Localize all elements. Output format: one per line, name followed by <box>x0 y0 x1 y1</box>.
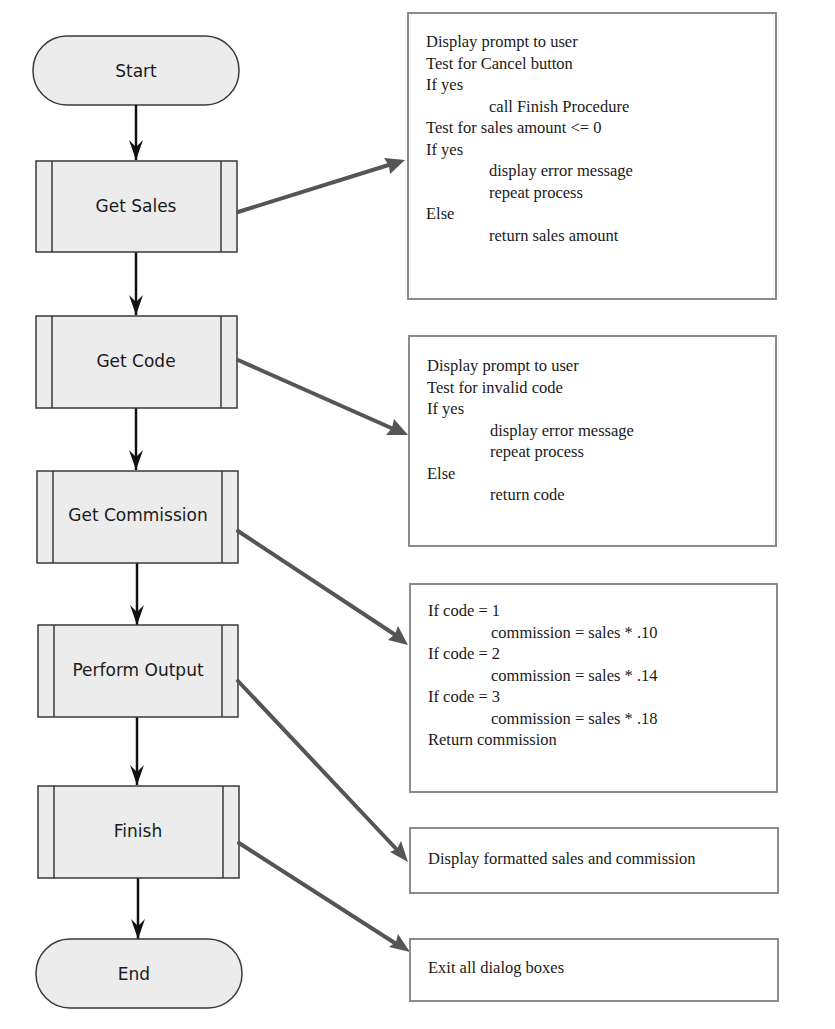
link-arrow-get-commission <box>238 531 400 638</box>
link-arrow-get-code <box>238 360 398 431</box>
pseudocode-line: If yes <box>426 139 775 161</box>
pseudocode-line: If code = 3 <box>428 686 776 708</box>
pseudocode-line: Display prompt to user <box>427 355 775 377</box>
pseudocode-line: repeat process <box>427 441 775 463</box>
pseudocode-line: Exit all dialog boxes <box>428 957 777 979</box>
pseudocode-box-get-commission: If code = 1 commission = sales * .10 If … <box>409 583 778 793</box>
link-arrow-perform-output <box>238 681 401 854</box>
node-perform-output: Perform Output <box>38 625 238 717</box>
link-arrow-get-sales <box>238 163 395 212</box>
pseudocode-box-get-code: Display prompt to user Test for invalid … <box>408 335 777 547</box>
pseudocode-line: call Finish Procedure <box>426 96 775 118</box>
pseudocode-line: Return commission <box>428 729 776 751</box>
pseudocode-line: Display prompt to user <box>426 31 775 53</box>
get-commission-label: Get Commission <box>68 505 207 525</box>
pseudocode-line: If yes <box>426 74 775 96</box>
node-finish: Finish <box>38 786 239 878</box>
pseudocode-line: If code = 2 <box>428 643 776 665</box>
pseudocode-line: Test for sales amount <= 0 <box>426 117 775 139</box>
start-terminal: Start <box>33 36 239 105</box>
pseudocode-line: display error message <box>426 160 775 182</box>
end-label: End <box>118 964 150 984</box>
node-get-sales: Get Sales <box>36 161 237 252</box>
pseudocode-line: return sales amount <box>426 225 775 247</box>
pseudocode-line: Test for Cancel button <box>426 53 775 75</box>
finish-label: Finish <box>114 821 162 841</box>
pseudocode-line: Test for invalid code <box>427 377 775 399</box>
start-label: Start <box>115 61 157 81</box>
pseudocode-line: return code <box>427 484 775 506</box>
perform-output-label: Perform Output <box>72 660 204 680</box>
pseudocode-box-get-sales: Display prompt to user Test for Cancel b… <box>407 12 777 300</box>
pseudocode-line: If yes <box>427 398 775 420</box>
pseudocode-line: Else <box>426 203 775 225</box>
pseudocode-line: commission = sales * .18 <box>428 708 776 730</box>
node-get-code: Get Code <box>36 316 237 408</box>
pseudocode-line: Display formatted sales and commission <box>428 848 777 870</box>
pseudocode-box-finish: Exit all dialog boxes <box>409 938 779 1002</box>
get-sales-label: Get Sales <box>96 196 177 216</box>
pseudocode-box-perform-output: Display formatted sales and commission <box>409 827 779 894</box>
node-get-commission: Get Commission <box>37 471 238 563</box>
end-terminal: End <box>36 939 242 1008</box>
link-arrow-finish <box>239 843 401 947</box>
pseudocode-line: repeat process <box>426 182 775 204</box>
link-arrows <box>238 158 410 952</box>
pseudocode-line: commission = sales * .10 <box>428 622 776 644</box>
pseudocode-line: commission = sales * .14 <box>428 665 776 687</box>
pseudocode-line: If code = 1 <box>428 600 776 622</box>
pseudocode-line: Else <box>427 463 775 485</box>
get-code-label: Get Code <box>96 351 175 371</box>
pseudocode-line: display error message <box>427 420 775 442</box>
